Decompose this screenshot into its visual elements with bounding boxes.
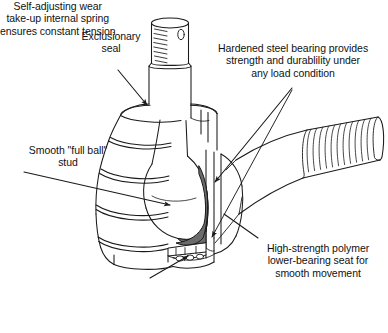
leader-full-ball-stud <box>24 172 170 205</box>
ball-stud-part <box>144 120 208 239</box>
leader-exclusionary-seal <box>118 70 147 105</box>
leader-hardened-bearing-lower <box>212 90 292 237</box>
ball-joint-diagram: Exclusionary seal Hardened steel bearing… <box>0 0 388 333</box>
hardened-steel-bearing-part <box>176 166 208 246</box>
leader-internal-spring <box>150 256 188 278</box>
leader-hardened-bearing-upper <box>215 88 292 182</box>
callout-full-ball-stud: Smooth "full ball" stud <box>2 144 134 169</box>
callout-polymer-lower-bearing-seat: High-strength polymer lower-bearing seat… <box>250 242 386 279</box>
callout-internal-spring: Self-adjusting wear take-up internal spr… <box>0 0 116 37</box>
callout-hardened-steel-bearing: Hardened steel bearing provides strength… <box>199 42 387 79</box>
